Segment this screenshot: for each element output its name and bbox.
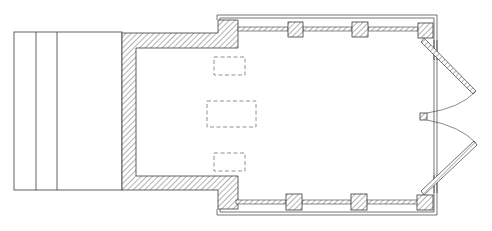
rear-masonry-wall (122, 20, 238, 209)
pillars (286, 22, 433, 210)
side-walls (236, 27, 418, 204)
floor-plan-drawing (0, 0, 492, 231)
furniture-outline (214, 57, 245, 75)
center-post (420, 113, 427, 120)
pillar (352, 22, 368, 37)
main-hall-outline (217, 15, 437, 215)
door-leaf-bottom (421, 141, 477, 195)
door-leaf-top (421, 38, 476, 94)
pillar (286, 194, 302, 210)
furniture-outline (207, 101, 256, 127)
pillar (288, 22, 303, 37)
pillar (351, 194, 367, 210)
dashed-furniture (207, 57, 256, 171)
pillar (418, 23, 433, 38)
pillar (417, 195, 433, 210)
furniture-outline (214, 153, 245, 171)
double-doors (420, 38, 477, 195)
steps (14, 32, 122, 190)
